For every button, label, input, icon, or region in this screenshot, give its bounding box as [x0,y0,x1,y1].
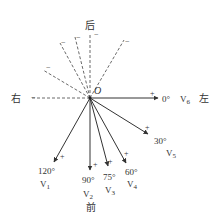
lead-v6-label: 0° V6 [162,94,191,106]
origin-label: O [94,85,101,96]
plus-sign: + [108,157,113,166]
v5-arrow [90,98,148,134]
v4-negative-axis [60,43,90,98]
negative-signs: − − − − − − [31,30,130,102]
right-label: 右 [11,92,21,104]
plus-sign: + [60,152,65,161]
lead-axis-diagram: O 后 右 左 前 − − − − − − + + + + + + 0° V6 [0,0,222,223]
v3-angle: 75° [103,172,116,182]
v6-name: V6 [180,94,191,106]
lead-v1-label: 120° V1 [38,166,56,191]
v3-arrow [90,98,108,166]
origin-point [89,97,92,100]
v3-name: V3 [105,185,116,197]
lead-v4-label: 60° V4 [125,167,138,191]
v5-name: V5 [166,148,177,160]
lead-v5-label: 30° V5 [154,136,177,160]
plus-sign: + [124,149,129,158]
minus-sign: − [94,30,99,39]
minus-sign: − [31,93,36,102]
minus-sign: − [125,37,130,46]
negative-axes [30,34,124,98]
v4-arrow [90,98,126,163]
diagram-svg: O 后 右 左 前 − − − − − − + + + + + + 0° V6 [0,0,222,223]
lead-v2-label: 90° V2 [82,175,95,201]
v6-angle: 0° [162,94,171,104]
v2-angle: 90° [82,175,95,185]
v4-name: V4 [127,179,138,191]
left-label: 左 [199,92,209,104]
lead-v3-label: 75° V3 [103,172,116,197]
v2-name: V2 [83,189,94,201]
plus-sign: + [145,123,150,132]
v4-angle: 60° [125,167,138,177]
v1-angle: 120° [38,166,56,176]
v5-angle: 30° [154,136,167,146]
v5-negative-axis [43,70,90,98]
minus-sign: − [76,33,81,42]
v1-name: V1 [40,179,51,191]
minus-sign: − [61,38,66,47]
positive-axes [54,98,158,170]
plus-sign: + [93,160,98,169]
front-label: 前 [86,201,96,213]
minus-sign: − [46,63,51,72]
plus-sign: + [150,89,155,98]
v3-negative-axis [75,37,90,98]
